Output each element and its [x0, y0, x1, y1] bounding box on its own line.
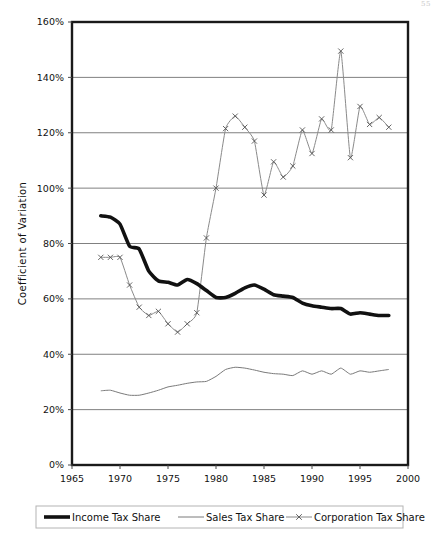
- legend-label-corporation-tax-share: Corporation Tax Share: [314, 512, 425, 523]
- data-series-layer: [98, 48, 391, 395]
- x-tick-label-1975: 1975: [156, 473, 180, 484]
- y-tick-label-120: 120%: [37, 127, 64, 138]
- series-line-corporation-tax-share: [101, 51, 389, 332]
- y-tick-label-160: 160%: [37, 16, 64, 27]
- x-axis-tick-labels: 19651970197519801985199019952000: [60, 473, 420, 484]
- gridlines-group: [72, 22, 408, 410]
- y-axis-title: Coefficient of Variation: [17, 182, 28, 306]
- series-markers-corporation-tax-share: [98, 48, 391, 334]
- x-tick-label-1995: 1995: [348, 473, 372, 484]
- x-tick-label-1980: 1980: [204, 473, 228, 484]
- y-tick-label-80: 80%: [43, 238, 64, 249]
- y-tick-label-20: 20%: [43, 404, 64, 415]
- y-tick-label-100: 100%: [37, 183, 64, 194]
- y-tick-label-40: 40%: [43, 349, 64, 360]
- chart-figure: 55 0%20%40%60%80%100%120%140%160% 196519…: [0, 0, 439, 540]
- y-tick-label-60: 60%: [43, 293, 64, 304]
- series-line-sales-tax-share: [101, 367, 389, 395]
- legend-label-income-tax-share: Income Tax Share: [72, 512, 161, 523]
- x-tick-label-1970: 1970: [108, 473, 132, 484]
- y-axis-title-text: Coefficient of Variation: [17, 182, 28, 306]
- coefficient-of-variation-line-chart: 0%20%40%60%80%100%120%140%160% 196519701…: [0, 0, 439, 540]
- x-tick-label-1965: 1965: [60, 473, 84, 484]
- x-tick-label-1985: 1985: [252, 473, 276, 484]
- x-tick-label-2000: 2000: [396, 473, 420, 484]
- series-line-income-tax-share: [101, 216, 389, 316]
- legend-label-sales-tax-share: Sales Tax Share: [206, 512, 284, 523]
- page-number: 55: [421, 0, 431, 8]
- y-tick-label-0: 0%: [49, 459, 64, 470]
- chart-legend: Income Tax ShareSales Tax ShareCorporati…: [36, 506, 425, 528]
- x-tick-label-1990: 1990: [300, 473, 324, 484]
- y-tick-label-140: 140%: [37, 72, 64, 83]
- y-axis-tick-labels: 0%20%40%60%80%100%120%140%160%: [37, 16, 64, 470]
